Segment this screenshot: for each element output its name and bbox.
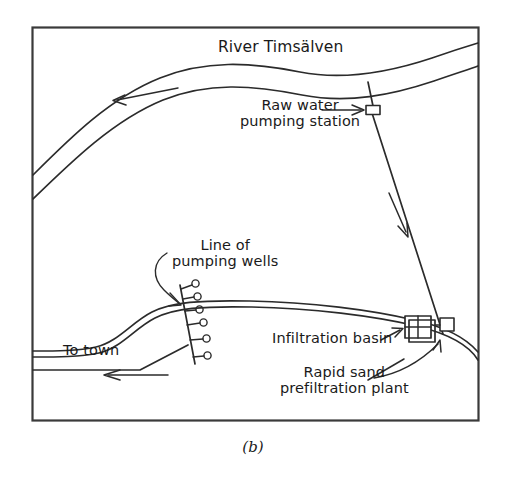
river-label: River Timsälven — [218, 39, 343, 56]
map-border — [33, 28, 479, 421]
raw-water-pumping-station-label: Raw water pumping station — [240, 97, 360, 129]
rapid-sand-prefiltration-plant-label: Rapid sand prefiltration plant — [280, 364, 409, 396]
raw-water-pumping-station-box — [366, 106, 380, 115]
infiltration-basin-label: Infiltration basin — [272, 330, 392, 346]
to-town-label: To town — [63, 342, 119, 358]
figure-container: River Timsälven Raw water pumping statio… — [0, 0, 506, 482]
line-of-pumping-wells-label: Line of pumping wells — [172, 237, 278, 269]
figure-caption: (b) — [0, 438, 506, 456]
infiltration-basin-box — [405, 316, 435, 342]
